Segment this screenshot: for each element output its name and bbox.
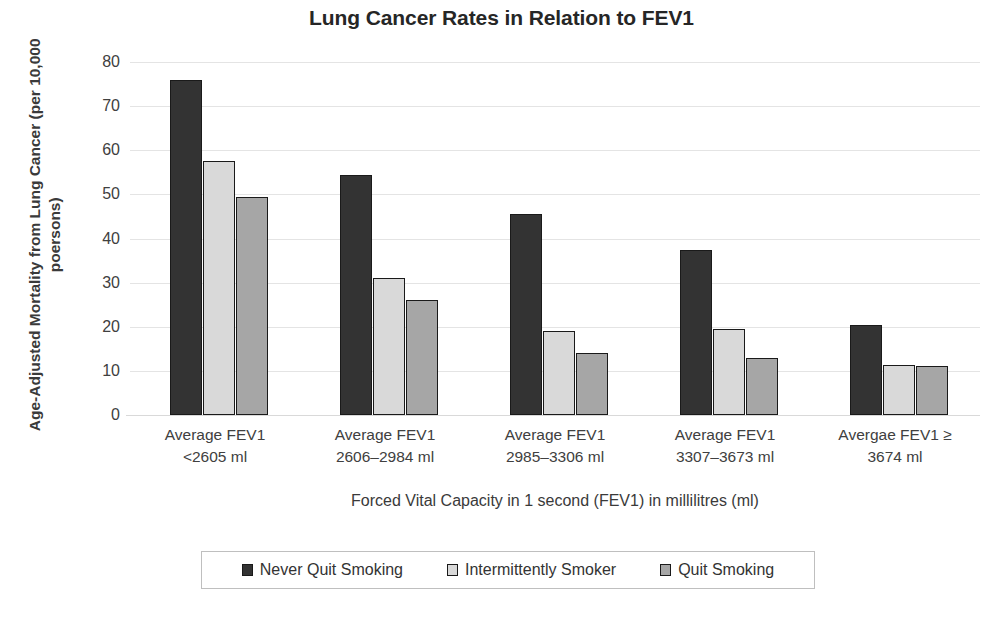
plot-area	[130, 62, 980, 415]
x-axis-title: Forced Vital Capacity in 1 second (FEV1)…	[130, 492, 980, 510]
bar[interactable]	[916, 366, 948, 415]
x-axis-category-label-line: 2985–3306 ml	[470, 446, 640, 468]
x-axis-category-label-line: Average FEV1	[130, 424, 300, 446]
bar[interactable]	[203, 161, 235, 415]
x-axis-category-label-line: Avergae FEV1 ≥	[810, 424, 980, 446]
y-axis-tick-label: 10	[86, 362, 120, 380]
legend-entry[interactable]: Never Quit Smoking	[242, 561, 403, 579]
bar[interactable]	[340, 175, 372, 415]
bar-group	[170, 62, 268, 415]
x-axis-category-labels: Average FEV1<2605 mlAverage FEV12606–298…	[130, 424, 980, 480]
bar-group	[680, 62, 778, 415]
x-axis-category-label-line: <2605 ml	[130, 446, 300, 468]
bar[interactable]	[883, 365, 915, 415]
x-axis-category-label-line: Average FEV1	[300, 424, 470, 446]
y-axis-tick-label: 30	[86, 274, 120, 292]
legend-label: Never Quit Smoking	[260, 561, 403, 579]
legend-swatch-icon	[242, 564, 253, 576]
y-axis-tick-label: 70	[86, 97, 120, 115]
x-axis-category-label-line: 2606–2984 ml	[300, 446, 470, 468]
x-axis-category-label: Average FEV1<2605 ml	[130, 424, 300, 469]
legend-swatch-icon	[660, 564, 671, 576]
x-axis-category-label-line: 3674 ml	[810, 446, 980, 468]
bar[interactable]	[510, 214, 542, 415]
x-axis-baseline	[126, 415, 980, 416]
legend-label: Intermittently Smoker	[465, 561, 616, 579]
chart-container: Lung Cancer Rates in Relation to FEV1 Ag…	[0, 0, 1003, 631]
x-axis-category-label: Average FEV13307–3673 ml	[640, 424, 810, 469]
legend-label: Quit Smoking	[678, 561, 774, 579]
x-axis-category-label-line: Average FEV1	[640, 424, 810, 446]
y-axis-tick-label: 50	[86, 185, 120, 203]
legend-entry[interactable]: Quit Smoking	[660, 561, 774, 579]
bar-group	[340, 62, 438, 415]
bar[interactable]	[680, 250, 712, 415]
y-axis-tick-labels: 80706050403020100	[86, 62, 120, 415]
x-axis-category-label-line: 3307–3673 ml	[640, 446, 810, 468]
bar[interactable]	[713, 329, 745, 415]
bar[interactable]	[170, 80, 202, 415]
x-axis-category-label: Average FEV12606–2984 ml	[300, 424, 470, 469]
bar[interactable]	[373, 278, 405, 415]
legend-swatch-icon	[447, 564, 458, 576]
bar[interactable]	[746, 358, 778, 415]
y-axis-tick-label: 20	[86, 318, 120, 336]
x-axis-category-label: Avergae FEV1 ≥3674 ml	[810, 424, 980, 469]
legend-entry[interactable]: Intermittently Smoker	[447, 561, 616, 579]
bar[interactable]	[236, 197, 268, 415]
x-axis-category-label: Average FEV12985–3306 ml	[470, 424, 640, 469]
chart-title: Lung Cancer Rates in Relation to FEV1	[0, 6, 1003, 30]
y-axis-title: Age-Adjusted Mortality from Lung Cancer …	[25, 35, 65, 435]
bar[interactable]	[576, 353, 608, 415]
chart-legend: Never Quit SmokingIntermittently SmokerQ…	[201, 551, 815, 589]
bar[interactable]	[850, 325, 882, 415]
bar[interactable]	[543, 331, 575, 415]
y-axis-tick-label: 40	[86, 230, 120, 248]
bar-group	[510, 62, 608, 415]
y-axis-tick-label: 60	[86, 141, 120, 159]
bar-group	[850, 62, 948, 415]
y-axis-tick-label: 0	[86, 406, 120, 424]
y-axis-tick-label: 80	[86, 53, 120, 71]
x-axis-category-label-line: Average FEV1	[470, 424, 640, 446]
bar[interactable]	[406, 300, 438, 415]
